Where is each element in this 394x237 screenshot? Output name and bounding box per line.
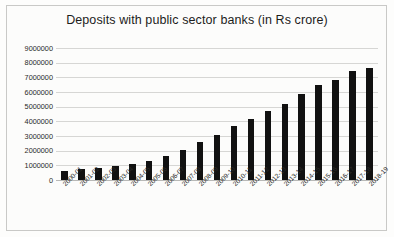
x-axis-labels: 2000-012001-022002-032003-042004-052005-… <box>0 0 394 237</box>
chart-page: Deposits with public sector banks (in Rs… <box>0 0 394 237</box>
